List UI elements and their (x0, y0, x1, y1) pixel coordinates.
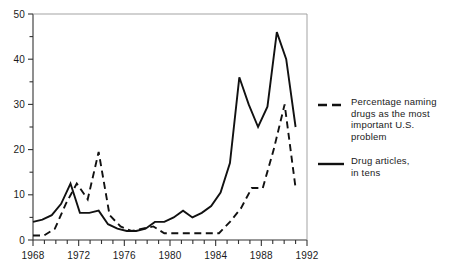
x-tick-label: 1980 (158, 250, 181, 261)
x-axis-tick-labels: 1968197219761980198419881992 (21, 250, 318, 261)
x-tick-label: 1988 (250, 250, 273, 261)
legend-entry-drug-articles: Drug articles, in tens (318, 155, 456, 178)
data-series-layer (33, 32, 296, 235)
x-tick-label: 1984 (204, 250, 227, 261)
y-tick-label: 20 (13, 144, 25, 155)
x-tick-label: 1992 (295, 250, 318, 261)
y-tick-label: 0 (19, 235, 25, 246)
y-axis-ticks (28, 14, 33, 240)
dashed-line-swatch-icon (318, 99, 344, 111)
x-axis-ticks (33, 240, 307, 246)
legend-label-drug-articles: Drug articles, in tens (351, 155, 410, 178)
y-tick-label: 30 (13, 99, 25, 110)
series-line-drug-articles (33, 32, 296, 231)
x-tick-label: 1972 (67, 250, 90, 261)
x-tick-label: 1968 (21, 250, 44, 261)
y-axis-tick-labels: 01020304050 (13, 9, 25, 246)
x-tick-label: 1976 (113, 250, 136, 261)
y-tick-label: 10 (13, 189, 25, 200)
legend-label-percentage: Percentage naming drugs as the most impo… (351, 96, 437, 142)
y-tick-label: 50 (13, 9, 25, 20)
y-tick-label: 40 (13, 54, 25, 65)
solid-line-swatch-icon (318, 158, 344, 170)
plot-axes (33, 14, 307, 240)
legend-entry-percentage: Percentage naming drugs as the most impo… (318, 96, 456, 142)
chart-legend: Percentage naming drugs as the most impo… (318, 96, 456, 192)
chart-figure: 01020304050 1968197219761980198419881992… (0, 0, 456, 275)
